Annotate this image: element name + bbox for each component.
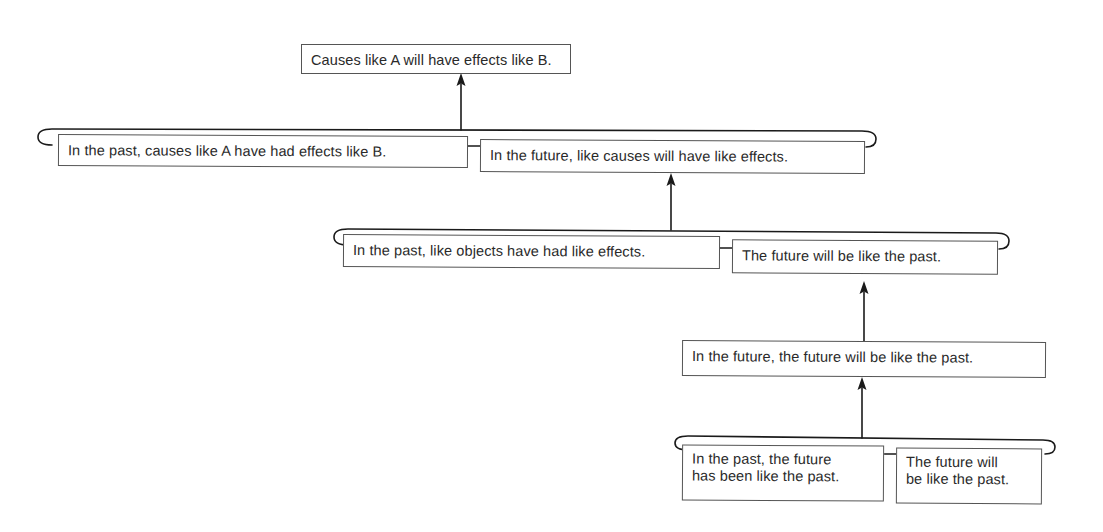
node-future-will-be-like-past: The future will be like the past.	[896, 448, 1042, 505]
node-conclusion: Causes like A will have effects like B.	[301, 44, 571, 74]
node-past-causes-effects-text: In the past, causes like A have had effe…	[68, 142, 458, 161]
node-future-like-causes: In the future, like causes will have lik…	[480, 139, 865, 174]
argument-diagram: Causes like A will have effects like B. …	[0, 0, 1103, 532]
node-past-like-objects-text: In the past, like objects have had like …	[353, 242, 710, 261]
node-past-like-objects: In the past, like objects have had like …	[343, 234, 720, 269]
node-past-future-been-like-past: In the past, the future has been like th…	[682, 444, 884, 501]
node-future-like-causes-text: In the future, like causes will have lik…	[490, 147, 855, 166]
node-future-future-like-past-text: In the future, the future will be like t…	[692, 348, 1036, 367]
node-past-future-line2: has been like the past.	[692, 468, 874, 486]
node-past-future-line1: In the past, the future	[692, 451, 874, 469]
node-future-like-past-text: The future will be like the past.	[742, 247, 988, 265]
node-conclusion-text: Causes like A will have effects like B.	[311, 52, 561, 69]
node-past-causes-effects: In the past, causes like A have had effe…	[58, 134, 468, 168]
node-future-like-past: The future will be like the past.	[732, 239, 998, 274]
node-future-future-like-past: In the future, the future will be like t…	[682, 340, 1046, 378]
node-future-will-line1: The future will	[906, 454, 1032, 472]
node-future-will-line2: be like the past.	[906, 471, 1032, 489]
